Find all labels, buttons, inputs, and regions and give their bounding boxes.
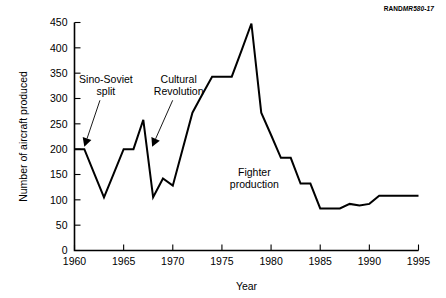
x-axis-tick-labels: 19601965197019751980198519901995 xyxy=(63,255,431,267)
y-tick-label: 300 xyxy=(50,92,68,104)
y-tick-label: 250 xyxy=(50,118,68,130)
y-axis-title: Number of aircraft produced xyxy=(17,71,29,202)
x-axis-ticks xyxy=(75,245,419,251)
axis-spines xyxy=(75,23,419,251)
x-axis-title: Year xyxy=(236,280,258,292)
y-tick-label: 50 xyxy=(56,219,68,231)
x-tick-label: 1970 xyxy=(161,255,185,267)
annotation-sino-soviet-split: Sino-Sovietsplit xyxy=(79,73,133,97)
annotation-cultural-revolution: CulturalRevolution xyxy=(154,73,204,97)
x-tick-label: 1985 xyxy=(309,255,333,267)
annotations-group: Sino-SovietsplitCulturalRevolutionFighte… xyxy=(79,73,279,189)
axis-frame xyxy=(75,23,419,251)
figure-container: RANDMR580-17 050100150200250300350400450… xyxy=(0,0,446,298)
annotation-leader-cultural-revolution xyxy=(156,100,173,139)
annotation-line: Sino-Soviet xyxy=(79,73,133,85)
y-tick-label: 200 xyxy=(50,143,68,155)
y-axis-tick-labels: 050100150200250300350400450 xyxy=(50,16,68,256)
y-tick-label: 100 xyxy=(50,194,68,206)
annotation-fighter-production: Fighterproduction xyxy=(230,166,279,190)
annotation-line: Cultural xyxy=(161,73,197,85)
y-tick-label: 150 xyxy=(50,168,68,180)
x-tick-label: 1995 xyxy=(407,255,431,267)
annotation-line: split xyxy=(97,85,116,97)
annotation-line: production xyxy=(230,178,279,190)
x-tick-label: 1990 xyxy=(358,255,382,267)
annotation-leader-sino-soviet-split xyxy=(87,100,100,138)
x-tick-label: 1965 xyxy=(112,255,136,267)
x-tick-label: 1975 xyxy=(210,255,234,267)
y-tick-label: 400 xyxy=(50,42,68,54)
annotation-line: Fighter xyxy=(238,166,271,178)
x-tick-label: 1980 xyxy=(259,255,283,267)
annotation-line: Revolution xyxy=(154,85,204,97)
line-chart: 050100150200250300350400450 196019651970… xyxy=(0,0,446,298)
x-tick-label: 1960 xyxy=(63,255,87,267)
y-tick-label: 450 xyxy=(50,16,68,28)
y-axis-ticks xyxy=(75,23,81,251)
y-tick-label: 350 xyxy=(50,67,68,79)
